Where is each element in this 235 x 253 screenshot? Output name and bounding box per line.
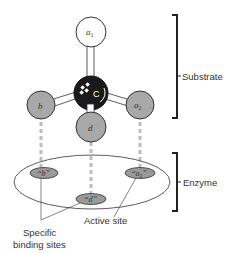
bond-a1 — [87, 46, 94, 78]
specific-binding-label-line1: Specific — [23, 227, 57, 238]
site-b-label: “b” — [37, 169, 50, 178]
specific-binding-label-line2: binding sites — [13, 239, 66, 250]
carbon-label: C — [93, 89, 100, 99]
atom-b-label: b — [38, 101, 43, 111]
atom-a1: a1 — [76, 17, 106, 47]
active-site-label: Active site — [84, 215, 127, 226]
substrate-bracket: Substrate — [172, 15, 223, 118]
binding-site-b: “b” — [30, 168, 58, 179]
atom-d: d — [76, 112, 106, 142]
atom-a2: a2 — [126, 91, 154, 119]
site-d-label: “d” — [84, 195, 97, 204]
enzyme-label: Enzyme — [183, 177, 217, 188]
substrate-label: Substrate — [182, 71, 223, 82]
substrate-enzyme-diagram: a1 b a2 C d “b” “a2” “ — [0, 0, 235, 253]
atom-b: b — [27, 91, 55, 119]
site-a2-label: “a2” — [131, 169, 147, 179]
atom-d-label: d — [88, 123, 93, 133]
binding-site-a2: “a2” — [125, 168, 155, 179]
binding-site-d: “d” — [76, 194, 106, 205]
enzyme-bracket: Enzyme — [172, 153, 217, 211]
